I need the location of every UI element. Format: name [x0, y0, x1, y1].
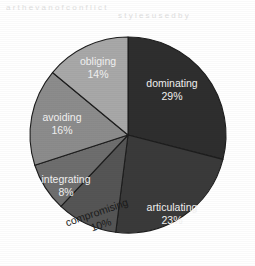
pie-chart: a r t h e v a n o f c o n f l i c t s t … [0, 0, 255, 266]
pie-svg-canvas: dominating29%articulating23%compromising… [0, 0, 255, 266]
pie-slices-group [30, 37, 226, 233]
